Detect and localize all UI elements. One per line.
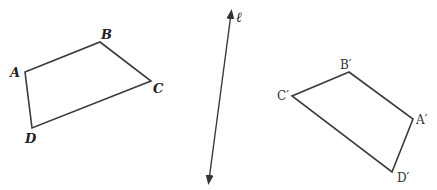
reflection-diagram: A B C D ℓ B′ C′ A′ D′ <box>0 0 437 190</box>
label-b: B <box>100 27 112 42</box>
label-a-prime: A′ <box>415 113 428 127</box>
label-a: A <box>8 65 20 80</box>
label-c: C <box>153 81 164 96</box>
label-c-prime: C′ <box>277 89 289 103</box>
quadrilateral-abcd <box>25 42 151 128</box>
label-b-prime: B′ <box>340 58 352 72</box>
label-d-prime: D′ <box>397 171 410 185</box>
quadrilateral-a-prime-b-prime-c-prime-d-prime <box>292 72 413 172</box>
label-line-l: ℓ <box>236 9 242 25</box>
label-d: D <box>24 131 37 146</box>
line-of-reflection <box>209 14 231 180</box>
